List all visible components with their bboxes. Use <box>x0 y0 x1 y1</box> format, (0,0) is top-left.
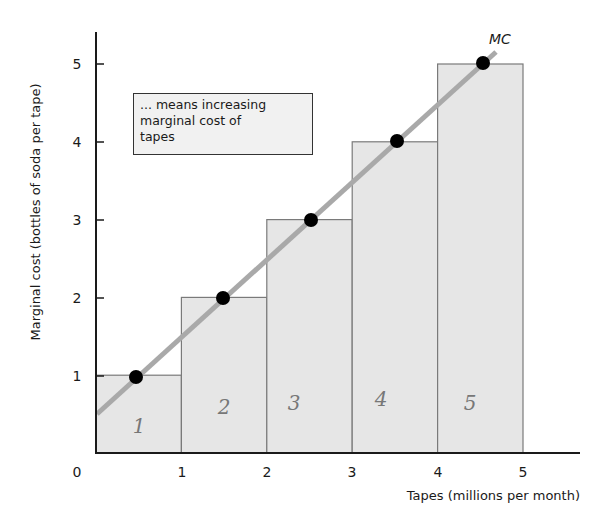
y-tick-5: 5 <box>73 56 82 72</box>
point-3 <box>304 213 318 227</box>
mc-curve-label: MC <box>489 31 511 47</box>
y-axis-title: Marginal cost (bottles of soda per tape) <box>28 83 43 340</box>
annotation-box: ... means increasing marginal cost of ta… <box>133 93 313 155</box>
point-5 <box>476 56 490 70</box>
bar-number-3: 3 <box>288 391 301 415</box>
y-tick-1: 1 <box>73 368 82 384</box>
annotation-line-2: marginal cost of <box>140 113 306 129</box>
bar-number-1: 1 <box>133 414 146 438</box>
y-tick-3: 3 <box>73 212 82 228</box>
bar-3 <box>267 220 352 453</box>
x-tick-1: 1 <box>178 464 187 480</box>
point-4 <box>390 134 404 148</box>
x-axis-title: Tapes (millions per month) <box>406 488 580 503</box>
bar-number-5: 5 <box>464 391 477 415</box>
bar-number-2: 2 <box>217 395 231 419</box>
bar-2 <box>181 297 266 453</box>
y-tick-2: 2 <box>73 290 82 306</box>
x-tick-4: 4 <box>434 464 443 480</box>
bar-4 <box>352 142 437 453</box>
y-ticks <box>96 64 104 376</box>
y-tick-4: 4 <box>73 134 82 150</box>
x-tick-3: 3 <box>348 464 357 480</box>
annotation-line-3: tapes <box>140 129 306 145</box>
x-tick-2: 2 <box>263 464 272 480</box>
point-1 <box>129 370 143 384</box>
annotation-line-1: ... means increasing <box>140 97 306 113</box>
chart-canvas: 1 2 3 4 5 MC 5 4 3 2 1 0 1 2 3 4 5 Tapes… <box>0 0 607 528</box>
point-2 <box>216 291 230 305</box>
bar-5 <box>438 64 523 453</box>
x-tick-0: 0 <box>73 464 82 480</box>
x-tick-5: 5 <box>519 464 528 480</box>
bar-number-4: 4 <box>374 387 388 411</box>
